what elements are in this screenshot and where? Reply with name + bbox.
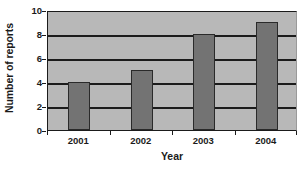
y-axis-tick-label: 0 (26, 126, 42, 136)
bar (131, 70, 153, 130)
y-axis-title-text: Number of reports (3, 23, 15, 113)
y-axis-tick-mark (42, 107, 46, 108)
x-axis-tick-mark (296, 131, 297, 135)
plot-inner (48, 12, 296, 130)
y-axis-tick-mark (42, 35, 46, 36)
x-axis-tick-label: 2004 (255, 136, 276, 146)
x-axis-tick-mark (172, 131, 173, 135)
y-axis-tick-label: 4 (26, 78, 42, 88)
x-axis-tick-labels: 2001200220032004 (47, 136, 297, 150)
y-axis-tick-label: 2 (26, 102, 42, 112)
x-axis-tick-mark (47, 131, 48, 135)
bar (193, 34, 215, 130)
x-axis-tick-mark (235, 131, 236, 135)
y-axis-tick-label: 10 (26, 6, 42, 16)
y-axis-title: Number of reports (0, 0, 18, 136)
y-axis-tick-mark (42, 11, 46, 12)
bar-chart-figure: Number of reports 0246810 20012002200320… (0, 0, 308, 169)
x-axis-title: Year (47, 150, 297, 162)
plot-area (47, 11, 297, 131)
bar (256, 22, 278, 130)
y-axis-tick-mark (42, 83, 46, 84)
bar (68, 82, 90, 130)
y-axis-tick-mark (42, 131, 46, 132)
y-axis-tick-label: 6 (26, 54, 42, 64)
x-axis-tick-label: 2003 (193, 136, 214, 146)
x-axis-tick-label: 2002 (130, 136, 151, 146)
x-axis-tick-mark (110, 131, 111, 135)
y-axis-tick-mark (42, 59, 46, 60)
x-axis-tick-label: 2001 (68, 136, 89, 146)
y-axis-tick-label: 8 (26, 30, 42, 40)
y-axis-tick-labels: 0246810 (20, 0, 42, 136)
